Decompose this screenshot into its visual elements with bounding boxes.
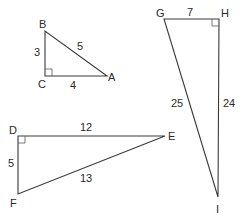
right-angle-marker-d	[18, 136, 25, 143]
vertex-label-i: I	[216, 203, 219, 215]
vertex-label-a: A	[108, 71, 116, 83]
side-length-bc: 3	[34, 46, 40, 58]
side-length-ca: 4	[70, 79, 76, 91]
side-length-ab: 5	[77, 40, 83, 52]
vertex-label-f: F	[10, 197, 17, 209]
side-length-df: 5	[8, 157, 14, 169]
vertex-label-c: C	[38, 78, 46, 90]
diagram-canvas: B C A 3 4 5 G H I 7 24 25 D E F 12 5 13	[0, 0, 243, 221]
side-length-hi: 24	[223, 97, 235, 109]
triangle-abc: B C A 3 4 5	[34, 18, 116, 91]
vertex-label-g: G	[156, 7, 165, 19]
triangle-def: D E F 12 5 13	[8, 121, 175, 209]
triangle-abc-shape	[45, 31, 107, 76]
vertex-label-b: B	[39, 18, 46, 30]
right-angle-marker-h	[212, 19, 219, 26]
side-length-gi: 25	[171, 97, 183, 109]
triangle-def-shape	[18, 136, 165, 194]
vertex-label-h: H	[221, 7, 229, 19]
side-length-ef: 13	[80, 172, 92, 184]
right-angle-marker-c	[45, 69, 52, 76]
side-length-gh: 7	[187, 6, 193, 18]
vertex-label-d: D	[9, 124, 17, 136]
vertex-label-e: E	[168, 130, 175, 142]
triangle-ghi: G H I 7 24 25	[156, 6, 235, 215]
side-length-de: 12	[80, 121, 92, 133]
